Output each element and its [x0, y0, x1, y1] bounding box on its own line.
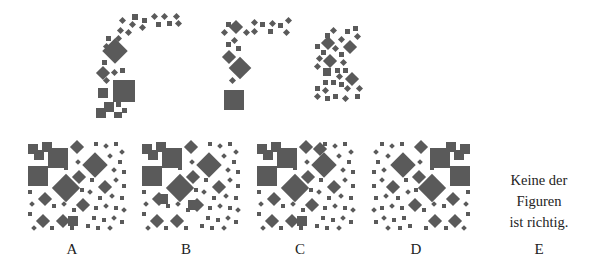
- option-a-shapes: [24, 138, 128, 234]
- option-e-line-2: Figuren: [489, 191, 589, 212]
- option-c-figure[interactable]: [253, 138, 357, 234]
- option-e-label[interactable]: E: [519, 241, 559, 258]
- piece-2: [220, 16, 295, 112]
- piece-3-shapes: [313, 24, 368, 102]
- piece-1: [92, 10, 197, 118]
- option-e-text[interactable]: Keine der Figuren ist richtig.: [489, 170, 589, 233]
- option-e-line-3: ist richtig.: [489, 212, 589, 233]
- piece-2-shapes: [220, 16, 295, 112]
- option-a-label[interactable]: A: [52, 241, 92, 258]
- option-d-shapes: [368, 138, 474, 234]
- option-a-figure[interactable]: [24, 138, 128, 234]
- piece-1-shapes: [92, 10, 197, 118]
- option-c-label[interactable]: C: [280, 241, 320, 258]
- option-c-shapes: [253, 138, 357, 234]
- option-b-figure[interactable]: [138, 138, 242, 234]
- option-d-figure[interactable]: [368, 138, 474, 234]
- option-d-label[interactable]: D: [396, 241, 436, 258]
- piece-3: [313, 24, 368, 102]
- option-e-line-1: Keine der: [489, 170, 589, 191]
- option-b-shapes: [138, 138, 242, 234]
- option-b-label[interactable]: B: [166, 241, 206, 258]
